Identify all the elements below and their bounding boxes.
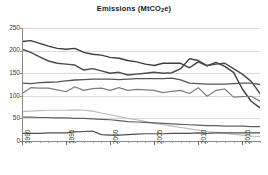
series-line: [22, 87, 260, 101]
series-line: [22, 131, 260, 135]
x-tick-mark: [93, 141, 94, 143]
x-tick-label: 2005: [157, 130, 164, 144]
x-tick-mark: [225, 141, 226, 143]
x-tick-mark: [260, 141, 261, 143]
chart-title-tail: e): [164, 4, 171, 13]
x-tick-mark: [145, 141, 146, 143]
plot-area: [22, 28, 260, 141]
x-tick-mark: [48, 141, 49, 143]
x-tick-mark: [40, 141, 41, 143]
x-tick-mark: [172, 141, 173, 143]
x-tick-mark: [57, 141, 58, 143]
emissions-line-chart: Emissions (MtCO2e) 050100150200250 19901…: [0, 0, 268, 175]
series-lines: [22, 28, 260, 141]
x-tick-mark: [137, 141, 138, 143]
y-axis-labels: 050100150200250: [0, 28, 20, 141]
y-tick-label: 200: [0, 47, 20, 54]
y-tick-label: 50: [0, 115, 20, 122]
y-tick-label: 150: [0, 70, 20, 77]
x-tick-mark: [234, 141, 235, 143]
x-tick-mark: [181, 141, 182, 143]
x-tick-mark: [189, 141, 190, 143]
series-line: [22, 78, 260, 84]
x-tick-mark: [128, 141, 129, 143]
x-tick-label: 1990: [25, 130, 32, 144]
chart-title-main: Emissions (MtCO: [97, 4, 161, 13]
x-tick-label: 1995: [69, 130, 76, 144]
x-tick-mark: [84, 141, 85, 143]
x-tick-label: 2015: [245, 130, 252, 144]
y-tick-label: 250: [0, 25, 20, 32]
x-axis-labels: 199019952000200520102015: [22, 144, 268, 174]
x-tick-mark: [101, 141, 102, 143]
x-tick-label: 2010: [201, 130, 208, 144]
y-axis-line: [22, 28, 23, 141]
y-tick-label: 100: [0, 93, 20, 100]
y-tick-label: 0: [0, 138, 20, 145]
series-line: [22, 117, 260, 127]
x-tick-label: 2000: [113, 130, 120, 144]
chart-title: Emissions (MtCO2e): [0, 4, 268, 13]
series-line: [22, 49, 260, 93]
x-tick-mark: [216, 141, 217, 143]
